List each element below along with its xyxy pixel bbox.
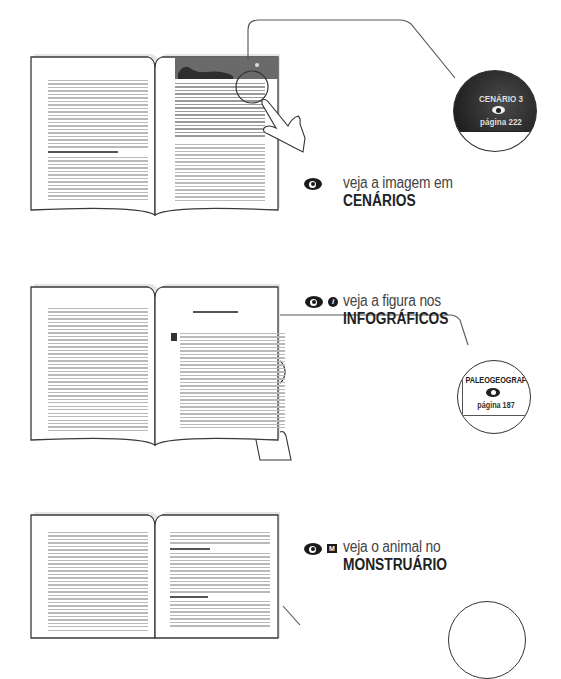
magnifier-monstruario — [448, 601, 526, 679]
bubble-page: página 187 — [465, 400, 526, 410]
label-infograficos: veja a figura nos INFOGRÁFICOS — [343, 292, 466, 329]
magnifier-paleogeografia: PALEOGEOGRAFIA página 187 — [457, 360, 531, 434]
eye-icon — [486, 388, 500, 397]
label-line2: CENÁRIOS — [343, 192, 453, 210]
bubble-page: página 222 — [466, 116, 536, 127]
book-illustration-monstruario — [28, 508, 288, 638]
label-line1: veja a figura nos — [343, 292, 448, 310]
left-page-text — [48, 532, 148, 633]
info-icon: i — [328, 297, 338, 307]
label-line2: INFOGRÁFICOS — [343, 310, 448, 328]
eye-icon — [304, 543, 322, 555]
right-page-text-2 — [170, 553, 270, 595]
left-page-text — [48, 308, 148, 433]
magnifier-cenario-3: CENÁRIO 3 página 222 — [453, 70, 537, 152]
left-page-text — [48, 80, 148, 150]
right-page-text — [180, 333, 285, 431]
bubble-title: PALEOGEOGRAFIA — [465, 375, 526, 385]
book-illustration-infograficos — [28, 280, 288, 460]
label-monstruario: veja o animal no MONSTRUÁRIO — [343, 538, 464, 575]
right-page-text-2 — [175, 144, 265, 203]
left-page-text-2 — [48, 157, 148, 202]
eye-icon — [304, 178, 322, 190]
label-line1: veja o animal no — [343, 538, 447, 556]
left-page-subheading — [48, 151, 118, 153]
right-page-text — [175, 83, 265, 139]
chapter-heading — [193, 311, 238, 313]
label-line2: MONSTRUÁRIO — [343, 556, 447, 574]
subheading-2 — [170, 596, 208, 598]
right-page-text-3 — [170, 601, 270, 629]
book-illustration-cenarios — [28, 50, 288, 230]
eye-icon — [305, 296, 323, 308]
eye-icon — [492, 106, 505, 114]
label-cenarios: veja a imagem em CENÁRIOS — [343, 174, 471, 211]
monstruario-m-icon: M — [327, 544, 337, 553]
label-line1: veja a imagem em — [343, 174, 453, 192]
bubble-title: CENÁRIO 3 — [466, 93, 536, 104]
right-page-text — [170, 532, 270, 546]
subheading-1 — [170, 548, 210, 550]
